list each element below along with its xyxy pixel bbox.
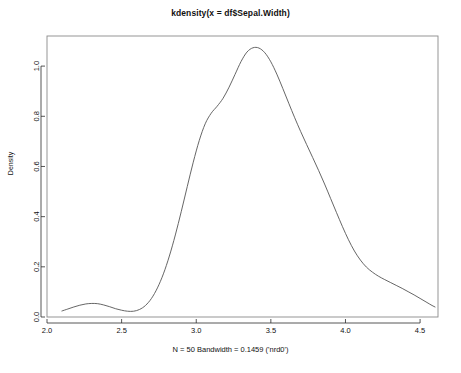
density-curve — [62, 47, 435, 311]
chart-subtitle: N = 50 Bandwidth = 0.1459 ('nrd0') — [0, 345, 461, 354]
x-tick-label: 4.5 — [415, 326, 425, 335]
density-plot-figure: kdensity(x = df$Sepal.Width) Density 2.0… — [0, 0, 461, 373]
x-tick-label: 2.0 — [42, 326, 52, 335]
y-tick-label: 0.8 — [32, 111, 41, 121]
density-curve-path — [62, 47, 435, 311]
y-tick-label: 0.2 — [32, 262, 41, 272]
y-axis: 0.00.20.40.60.81.0 — [32, 61, 45, 322]
y-tick-label: 1.0 — [32, 61, 41, 71]
y-tick-label: 0.4 — [32, 211, 41, 221]
y-tick-label: 0.6 — [32, 161, 41, 171]
x-tick-label: 4.0 — [340, 326, 350, 335]
y-tick-label: 0.0 — [32, 312, 41, 322]
x-tick-label: 2.5 — [116, 326, 126, 335]
x-tick-label: 3.0 — [191, 326, 201, 335]
plot-canvas: 2.02.53.03.54.04.5 0.00.20.40.60.81.0 — [0, 0, 461, 373]
plot-frame — [47, 36, 438, 317]
x-axis: 2.02.53.03.54.04.5 — [42, 319, 426, 335]
x-tick-label: 3.5 — [266, 326, 276, 335]
